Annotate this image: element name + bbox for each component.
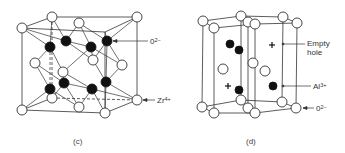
label-charge: 2− xyxy=(154,37,160,43)
o-atoms-black xyxy=(45,36,112,94)
label-empty-hole-d: Emptyhole xyxy=(307,39,330,57)
label-charge: 2− xyxy=(320,104,326,110)
label-text: Zr xyxy=(157,96,165,105)
caption-d: (d) xyxy=(246,137,256,146)
figure-d-corundum-structure xyxy=(197,11,314,118)
crystal-structures-diagram xyxy=(0,0,345,153)
label-oxygen-c: 02− xyxy=(150,37,161,46)
caption-c: (c) xyxy=(73,137,82,146)
leader-lines-c xyxy=(113,40,155,102)
label-text-line2: hole xyxy=(307,48,322,57)
label-text: Empty xyxy=(307,39,330,48)
label-charge: 4+ xyxy=(165,96,171,102)
o-atoms-white-d xyxy=(197,11,302,118)
label-zirconium-c: Zr4+ xyxy=(157,96,171,105)
label-aluminum-d: Al3+ xyxy=(313,82,326,91)
label-charge: 3+ xyxy=(320,82,326,88)
label-oxygen-d: 02− xyxy=(316,104,327,113)
figure-c-fluorite-structure xyxy=(17,12,155,118)
